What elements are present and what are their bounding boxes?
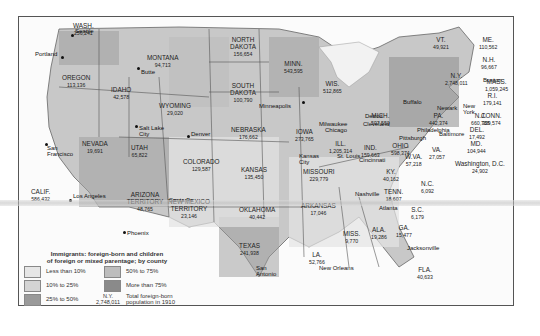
legend-label-50-75: 50% to 75% (126, 268, 158, 274)
city-buffalo: Buffalo (403, 99, 422, 105)
city-dot-seattle (71, 34, 74, 37)
legend-swatch-25-50 (24, 294, 41, 306)
state-label-nh: N.H.96,667 (481, 57, 497, 71)
state-label-ny: N.Y.2,748,011 (445, 73, 468, 87)
state-label-wva: W.VA.57,218 (405, 154, 422, 168)
legend-label-25-50: 25% to 50% (46, 296, 78, 302)
legend-sample-desc-line1: Total foreign-born (126, 293, 173, 299)
city-pittsburgh: Pittsburgh (399, 135, 426, 141)
state-label-ga: GA.15,477 (396, 225, 412, 239)
state-label-ky: KY.40,162 (383, 169, 399, 183)
city-dot-salt-lake-city (135, 125, 138, 128)
city-boston: Boston (483, 77, 502, 83)
state-label-sc: S.C.6,179 (411, 207, 424, 221)
state-label-idaho: IDAHO42,578 (111, 87, 131, 101)
city-dot-butte (137, 67, 140, 70)
city-new-orleans: New Orleans (319, 265, 354, 271)
city-cincinnati: Cincinnati (359, 157, 385, 163)
state-label-va: VA.27,057 (429, 147, 445, 161)
legend-swatch-50-75 (104, 266, 121, 278)
legend-swatch-10-25 (24, 280, 41, 292)
state-label-ri: R.I.179,141 (483, 93, 502, 107)
state-label-missouri: MISSOURI229,779 (303, 169, 335, 183)
city-san-antonio: San Antonio (256, 265, 284, 278)
legend: Immigrants: foreign-born and children of… (22, 250, 192, 302)
state-label-md: MD.104,944 (467, 141, 486, 155)
city-cleveland: Cleveland (363, 121, 390, 127)
legend-title-line2: of foreign or mixed parentage; by county (22, 257, 192, 264)
city-seattle: Seattle (75, 28, 94, 34)
legend-swatch-gt75 (104, 280, 121, 292)
state-label-texas: TEXAS241,938 (239, 243, 260, 257)
legend-label-10-25: 10% to 25% (46, 282, 78, 288)
city-chicago: Chicago (325, 127, 347, 133)
state-label-me: ME.110,562 (479, 37, 497, 51)
state-label-oklahoma: OKLAHOMA40,442 (239, 207, 275, 221)
state-label-wyoming: WYOMING29,020 (159, 103, 191, 117)
state-label-la: LA.52,766 (309, 252, 325, 266)
state-label-nevada: NEVADA19,691 (82, 141, 108, 155)
scan-artifact (0, 200, 540, 206)
city-jacksonville: Jacksonville (407, 245, 439, 251)
state-label-south-dakota: SOUTH DAKOTA100,790 (223, 83, 263, 103)
city-dot-portland (61, 56, 64, 59)
state-label-wis: WIS.512,865 (323, 81, 342, 95)
state-label-ala: ALA.19,286 (371, 227, 387, 241)
legend-label-lt10: Less than 10% (46, 268, 86, 274)
city-detroit: Detroit (365, 113, 383, 119)
legend-sample-desc: Total foreign-born population in 1910 (126, 293, 175, 306)
state-label-oregon: OREGON113,136 (62, 75, 90, 89)
state-label-montana: MONTANA94,713 (147, 55, 178, 69)
state-label-kansas: KANSAS135,450 (241, 167, 267, 181)
state-label-fla: FLA.40,633 (417, 267, 433, 281)
city-salt-lake-city: Salt Lake City (139, 125, 169, 138)
city-baltimore: Baltimore (439, 131, 464, 137)
city-denver: Denver (191, 131, 210, 137)
city-dot-phoenix (123, 231, 126, 234)
city-newark: Newark (437, 105, 457, 111)
state-label-iowa: IOWA273,765 (295, 129, 314, 143)
legend-sample-desc-line2: population in 1910 (126, 299, 175, 305)
state-label-colorado: COLORADO129,587 (183, 159, 220, 173)
city-kansas-city: Kansas City (299, 153, 325, 166)
city-nashville: Nashville (355, 191, 379, 197)
state-label-washington-dc: Washington, D.C.24,902 (455, 161, 505, 175)
legend-title-line1: Immigrants: foreign-born and children (22, 250, 192, 257)
city-st-louis: St. Louis (337, 153, 360, 159)
city-dot-denver (187, 135, 190, 138)
city-portland: Portland (35, 51, 57, 57)
city-minneapolis: Minneapolis (259, 103, 291, 109)
state-label-del: DEL.17,492 (469, 127, 485, 141)
legend-swatch-lt10 (24, 266, 41, 278)
city-phoenix: Phoenix (127, 230, 149, 236)
state-label-utah: UTAH65,822 (131, 145, 148, 159)
state-label-conn: CONN.329,574 (481, 113, 502, 127)
city-dot-minneapolis (302, 101, 305, 104)
state-label-miss: MISS.9,770 (343, 231, 360, 245)
city-los-angeles: Los Angeles (73, 193, 106, 199)
legend-sample-value: 2,748,011 (96, 299, 120, 305)
legend-sample: N.Y. 2,748,011 (96, 293, 120, 305)
state-label-north-dakota: NORTH DAKOTA156,654 (223, 37, 263, 57)
city-san-francisco: San Francisco (47, 145, 75, 158)
state-label-vt: VT.49,921 (433, 37, 449, 51)
city-butte: Butte (141, 69, 155, 75)
city-new-york: New York (463, 103, 483, 116)
state-label-nebraska: NEBRASKA176,662 (231, 127, 266, 141)
legend-label-gt75: More than 75% (126, 282, 167, 288)
state-label-nc: N.C.6,092 (421, 181, 434, 195)
state-label-pa: PA.442,374 (429, 113, 448, 127)
state-label-minn: MINN.543,595 (284, 61, 303, 75)
